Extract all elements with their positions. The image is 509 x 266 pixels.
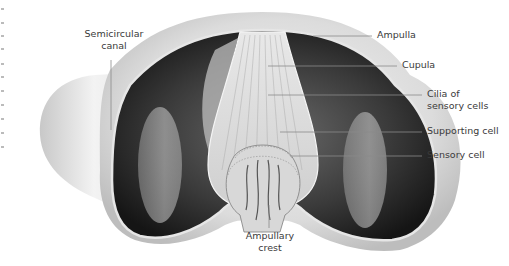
label-cupula: Cupula bbox=[402, 59, 435, 71]
label-ampullary-crest: Ampullary crest bbox=[234, 230, 306, 253]
label-supporting-cell: Supporting cell bbox=[427, 125, 499, 137]
label-semicircular-canal: Semicircular canal bbox=[78, 28, 150, 51]
label-ampulla: Ampulla bbox=[377, 29, 416, 41]
label-sensory-cell: Sensory cell bbox=[427, 149, 485, 161]
label-cilia-of-sensory-cells: Cilia of sensory cells bbox=[427, 88, 488, 111]
